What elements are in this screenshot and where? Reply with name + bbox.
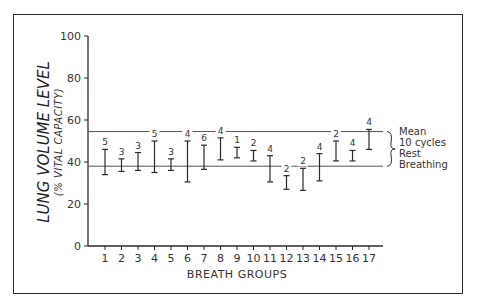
range-bar: 4 [364, 116, 374, 149]
range-bars: 53353464124224244 [100, 116, 374, 190]
legend-text: 10 cycles [399, 137, 446, 148]
x-tick-label: 13 [296, 252, 310, 265]
range-bar: 1 [232, 134, 242, 158]
legend-text: Rest [399, 148, 421, 159]
sample-count-label: 4 [218, 126, 224, 136]
x-tick-label: 17 [362, 252, 376, 265]
y-tick-label: 20 [67, 198, 81, 211]
range-bar: 4 [216, 125, 226, 160]
range-bar: 4 [183, 128, 193, 182]
range-bar: 4 [315, 141, 325, 181]
range-bar: 2 [298, 155, 308, 190]
range-bar: 6 [199, 132, 209, 169]
legend-text: Mean [399, 126, 426, 137]
sample-count-label: 3 [135, 141, 141, 151]
sample-count-label: 4 [267, 144, 273, 154]
y-tick-label: 40 [67, 156, 81, 169]
x-tick-label: 14 [313, 252, 327, 265]
sample-count-label: 2 [284, 164, 290, 174]
sample-count-label: 5 [152, 129, 158, 139]
x-tick-label: 10 [247, 252, 261, 265]
range-bar: 4 [348, 137, 358, 161]
legend: Mean10 cyclesRestBreathing [387, 126, 448, 170]
axis-labels: LUNG VOLUME LEVEL (% VITAL CAPACITY) BRE… [35, 61, 287, 281]
x-tick-label: 11 [263, 252, 277, 265]
sample-count-label: 2 [251, 138, 257, 148]
x-tick-label: 16 [346, 252, 360, 265]
brace-icon [387, 132, 395, 167]
x-tick-label: 8 [217, 252, 224, 265]
errorbar-chart: 0204060801001234567891011121314151617 53… [0, 0, 477, 303]
range-bar: 2 [249, 137, 259, 161]
x-tick-label: 6 [184, 252, 191, 265]
y-tick-label: 80 [67, 72, 81, 85]
range-bar: 2 [282, 163, 292, 190]
sample-count-label: 3 [119, 147, 125, 157]
x-tick-label: 5 [168, 252, 175, 265]
sample-count-label: 2 [333, 129, 339, 139]
legend-text: Breathing [399, 159, 448, 170]
sample-count-label: 2 [300, 156, 306, 166]
x-tick-label: 12 [280, 252, 294, 265]
range-bar: 4 [265, 143, 275, 182]
y-axis-label: LUNG VOLUME LEVEL [35, 61, 53, 222]
x-tick-label: 7 [201, 252, 208, 265]
sample-count-label: 5 [102, 137, 108, 147]
x-tick-label: 1 [102, 252, 109, 265]
y-tick-label: 60 [67, 114, 81, 127]
sample-count-label: 3 [168, 147, 174, 157]
sample-count-label: 4 [366, 117, 372, 127]
range-bar: 3 [117, 146, 127, 172]
y-axis-sublabel: (% VITAL CAPACITY) [53, 88, 64, 196]
x-tick-label: 2 [118, 252, 125, 265]
sample-count-label: 4 [350, 138, 356, 148]
axes: 0204060801001234567891011121314151617 [60, 30, 383, 265]
range-bar: 5 [100, 136, 110, 174]
y-tick-label: 100 [60, 30, 81, 43]
range-bar: 3 [166, 146, 176, 171]
range-bar: 2 [331, 128, 341, 161]
y-tick-label: 0 [74, 240, 81, 253]
sample-count-label: 4 [185, 129, 191, 139]
x-tick-label: 9 [234, 252, 241, 265]
x-tick-label: 4 [151, 252, 158, 265]
sample-count-label: 6 [201, 133, 207, 143]
sample-count-label: 1 [234, 135, 240, 145]
x-tick-label: 15 [329, 252, 343, 265]
x-tick-label: 3 [135, 252, 142, 265]
sample-count-label: 4 [317, 142, 323, 152]
x-axis-label: BREATH GROUPS [187, 268, 287, 281]
